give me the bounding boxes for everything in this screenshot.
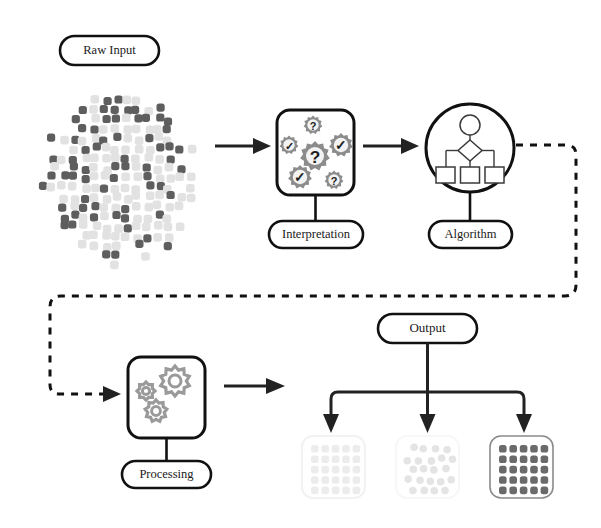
cloud-dot-light [79,220,88,229]
arrow-interpretation-to-algorithm [363,138,419,154]
result-dot [321,445,329,453]
result-dot [499,476,507,484]
result-dot [530,455,538,463]
cloud-dot-dark [164,242,172,250]
cloud-dot-light [113,192,122,201]
cloud-dot-dark [134,114,142,122]
cloud-dot-light [83,154,92,163]
badge-glyph-3: ✓ [335,138,347,153]
result-dot [499,445,507,453]
cloud-dot-light [78,240,87,249]
cloud-dot-dark [131,106,139,114]
node-algorithm[interactable]: Algorithm [426,104,514,248]
cloud-dot-dark [93,142,101,150]
result-dot [342,445,350,453]
cloud-dot-light [175,202,184,211]
cloud-dot-light [145,203,154,212]
cloud-dot-light [90,193,99,202]
result-dot [530,487,538,495]
result-dot [332,455,340,463]
cloud-dot-light [122,96,131,105]
cloud-dot-dark [47,171,55,179]
dashed-arrow-head [103,386,121,402]
result-dot [520,445,528,453]
result-right[interactable] [490,436,553,498]
cloud-dot-light [153,233,162,242]
cloud-dot-light [102,143,111,152]
node-raw-input[interactable]: Raw Input [60,36,159,65]
cloud-dot-dark [70,162,78,170]
badge-glyph-2: ✓ [285,140,294,152]
cloud-dot-dark [111,251,119,259]
result-dot [416,477,424,485]
cloud-dot-light [153,200,162,209]
cloud-dot-dark [112,211,120,219]
result-dot [509,455,517,463]
result-dot [311,455,319,463]
badge-glyph-6: ? [331,175,338,187]
cloud-dot-light [164,223,173,232]
result-dot [403,457,411,465]
result-dot [332,476,340,484]
cloud-dot-dark [124,224,132,232]
cloud-dot-dark [103,115,111,123]
cloud-dot-light [99,203,108,212]
node-interpretation[interactable]: ?✓✓?✓? Interpretation [269,110,363,248]
cloud-dot-dark [90,125,98,133]
cloud-dot-dark [82,166,90,174]
cloud-dot-light [82,184,91,193]
cloud-dot-light [102,231,111,240]
node-output[interactable]: Output [378,314,477,343]
cloud-dot-light [175,173,184,182]
result-dot [443,446,451,454]
arrow-head-right [516,414,532,433]
result-dot [530,445,538,453]
cloud-dot-light [59,195,68,204]
badge-glyph-4: ? [310,147,321,167]
result-dot [321,487,329,495]
result-dot [342,466,350,474]
cloud-dot-dark [82,175,90,183]
result-dot [447,476,455,484]
output-branch-connectors [323,343,532,433]
result-dot [311,487,319,495]
cloud-dot-dark [91,202,99,210]
cloud-dot-dark [81,195,89,203]
result-middle[interactable] [396,436,459,498]
cloud-dot-light [163,214,172,223]
node-processing[interactable]: Processing [122,357,211,488]
interpretation-label: Interpretation [282,227,351,241]
result-dot [332,466,340,474]
result-dot [431,487,439,495]
diagram-canvas: Raw Input ?✓✓?✓? Interpretation [0,0,601,528]
cloud-dot-light [134,172,143,181]
cloud-dot-light [111,153,120,162]
cloud-dot-dark [110,174,118,182]
result-dot [321,466,329,474]
cloud-dot-light [132,96,141,105]
cloud-dot-dark [165,142,173,150]
result-dot [530,476,538,484]
result-dot [410,443,418,451]
cloud-dot-dark [113,133,121,141]
cloud-dot-dark [68,220,76,228]
cloud-dot-light [187,194,196,203]
cloud-dot-dark [72,115,80,123]
result-dot [410,465,418,473]
result-dot [530,466,538,474]
cloud-dot-light [124,195,133,204]
cloud-dot-light [50,162,59,171]
cloud-dot-light [142,223,151,232]
cloud-dot-light [46,183,55,192]
result-dot [520,487,528,495]
result-dot [449,455,457,463]
cloud-dot-light [144,215,153,224]
cloud-dot-dark [156,143,164,151]
cloud-dot-light [122,114,131,123]
arrow-head-left [323,414,339,433]
flow-square-node-1 [436,167,455,183]
result-dot [342,487,350,495]
result-dot [499,455,507,463]
result-left[interactable] [302,436,365,498]
result-dot [353,476,361,484]
